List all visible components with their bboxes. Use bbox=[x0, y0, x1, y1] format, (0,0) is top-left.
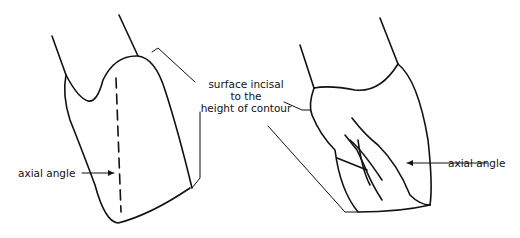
label-line-3: height of contour bbox=[190, 102, 302, 114]
label-line-1: surface incisal bbox=[190, 78, 302, 90]
left-tooth-drawing bbox=[52, 15, 192, 223]
right-axial-angle-label: axial angle bbox=[448, 157, 505, 169]
surface-incisal-label: surface incisal to the height of contour bbox=[190, 78, 302, 114]
label-line-2: to the bbox=[190, 90, 302, 102]
left-axial-angle-label: axial angle bbox=[18, 167, 75, 179]
right-tooth-drawing bbox=[300, 18, 431, 212]
tooth-diagram bbox=[0, 0, 520, 238]
